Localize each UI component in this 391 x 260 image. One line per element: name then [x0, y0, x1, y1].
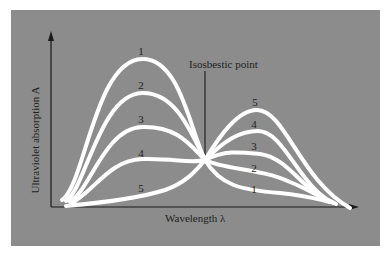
curve-label-4-left: 4 — [138, 147, 144, 159]
isosbestic-point-label: Isosbestic point — [189, 58, 258, 70]
x-axis-label: Wavelength λ — [165, 212, 226, 224]
curve-label-5-right: 5 — [252, 96, 258, 108]
curve-label-3-right: 3 — [251, 140, 257, 152]
curve-label-3-left: 3 — [138, 113, 144, 125]
curve-label-1-right: 1 — [251, 183, 257, 195]
curve-label-2-left: 2 — [138, 79, 144, 91]
y-axis-arrow-icon — [48, 31, 54, 41]
curve-label-1-left: 1 — [138, 45, 144, 57]
curve-2 — [66, 93, 332, 202]
absorption-diagram: 1 2 3 4 5 5 4 3 2 1 Isosbestic point Ult… — [0, 0, 391, 260]
curve-label-5-left: 5 — [138, 182, 144, 194]
curve-label-2-right: 2 — [251, 162, 257, 174]
curve-label-4-right: 4 — [251, 118, 257, 130]
y-axis-label: Ultraviolet absorption A — [29, 86, 41, 193]
